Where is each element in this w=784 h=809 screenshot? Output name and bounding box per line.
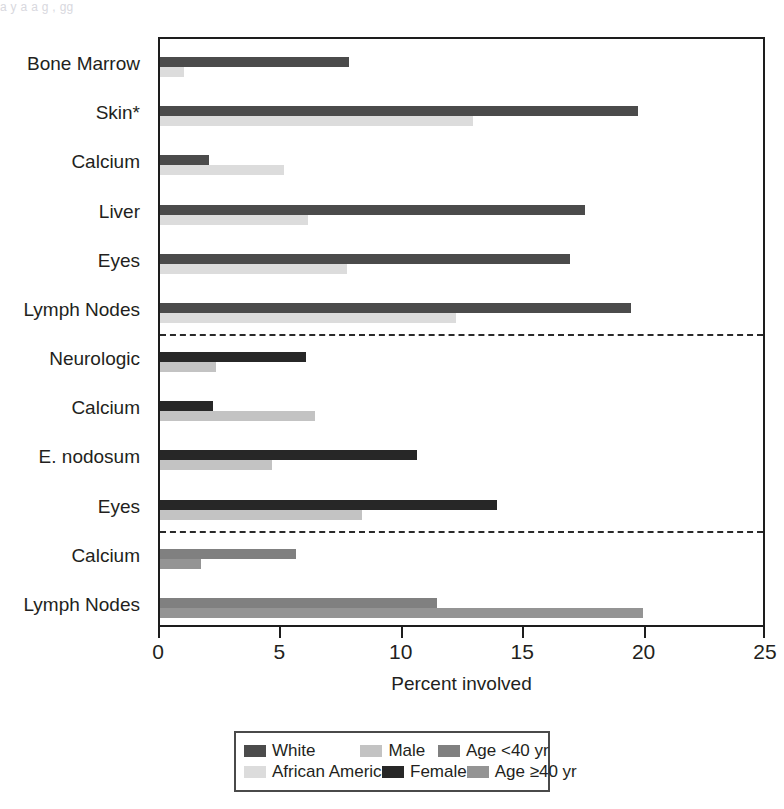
bar [160, 500, 497, 510]
legend-entry-age-under-40: Age <40 yr [438, 742, 548, 759]
bar [160, 313, 456, 323]
y-axis-category-label: Bone Marrow [0, 53, 148, 75]
y-axis-category-label: Lymph Nodes [0, 299, 148, 321]
bar [160, 264, 347, 274]
bar-group [160, 598, 763, 618]
x-axis-tick [279, 627, 281, 638]
bar-chart-figure: Bone MarrowSkin*CalciumLiverEyesLymph No… [0, 0, 784, 809]
y-axis-category-label: Neurologic [0, 348, 148, 370]
x-axis-tick [401, 627, 403, 638]
bar [160, 165, 284, 175]
bar [160, 549, 296, 559]
bar [160, 460, 272, 470]
y-axis-category-label: Liver [0, 201, 148, 223]
x-axis-tick-label: 20 [632, 640, 655, 664]
bar [160, 116, 473, 126]
bar [160, 608, 643, 618]
x-axis-tick-label: 25 [753, 640, 776, 664]
bar [160, 67, 184, 77]
bar [160, 401, 213, 411]
x-axis-tick [522, 627, 524, 638]
y-axis-category-label: Lymph Nodes [0, 594, 148, 616]
bar-group [160, 450, 763, 470]
legend-swatch-icon [360, 745, 382, 757]
x-axis-tick-labels: 0510152025 [0, 640, 784, 666]
legend-entry-age-40-plus: Age ≥40 yr [467, 763, 577, 780]
bar [160, 352, 306, 362]
x-axis-tick [644, 627, 646, 638]
y-axis-category-label: Calcium [0, 151, 148, 173]
x-axis-tick-label: 10 [389, 640, 412, 664]
legend-swatch-icon [244, 766, 266, 778]
bar [160, 155, 209, 165]
bar [160, 598, 437, 608]
legend-swatch-icon [438, 745, 460, 757]
legend-swatch-icon [244, 745, 266, 757]
bar [160, 411, 315, 421]
bar [160, 106, 638, 116]
bar-group [160, 401, 763, 421]
bar [160, 57, 349, 67]
x-axis-title: Percent involved [158, 673, 765, 695]
bar [160, 205, 585, 215]
y-axis-category-label: Calcium [0, 397, 148, 419]
x-axis-tick-label: 15 [511, 640, 534, 664]
bar-group [160, 254, 763, 274]
legend-entry-african-american: African American [236, 763, 382, 780]
bar-group [160, 57, 763, 77]
y-axis-category-label: Skin* [0, 102, 148, 124]
bar-group [160, 549, 763, 569]
legend-label: Male [388, 742, 425, 759]
bar-group [160, 155, 763, 175]
legend-entry-male: Male [360, 742, 438, 759]
legend-row: African American Female Age ≥40 yr [236, 761, 548, 782]
legend-label: White [272, 742, 315, 759]
x-axis-tick [158, 627, 160, 638]
legend: White Male Age <40 yr African American F… [234, 731, 550, 792]
y-axis-category-label: E. nodosum [0, 446, 148, 468]
group-divider [160, 334, 763, 336]
legend-swatch-icon [467, 766, 489, 778]
bar [160, 254, 570, 264]
legend-label: Age ≥40 yr [495, 763, 577, 780]
legend-row: White Male Age <40 yr [236, 740, 548, 761]
group-divider [160, 531, 763, 533]
bar-group [160, 303, 763, 323]
bar [160, 450, 417, 460]
y-axis-category-label: Eyes [0, 250, 148, 272]
x-axis-tick-label: 5 [274, 640, 286, 664]
bar [160, 510, 362, 520]
bar-group [160, 352, 763, 372]
bar [160, 559, 201, 569]
legend-entry-female: Female [382, 763, 467, 780]
bar [160, 303, 631, 313]
y-axis-category-label: Calcium [0, 545, 148, 567]
legend-label: Age <40 yr [466, 742, 549, 759]
y-axis-category-label: Eyes [0, 496, 148, 518]
bar-group [160, 106, 763, 126]
bar [160, 362, 216, 372]
bar-group [160, 500, 763, 520]
legend-entry-white: White [236, 742, 360, 759]
x-axis-ticks [158, 627, 765, 639]
x-axis-tick [763, 627, 765, 638]
bar [160, 215, 308, 225]
legend-label: Female [410, 763, 467, 780]
legend-swatch-icon [382, 766, 404, 778]
plot-inner [160, 39, 763, 625]
plot-area [158, 37, 765, 627]
x-axis-tick-label: 0 [152, 640, 164, 664]
bar-group [160, 205, 763, 225]
